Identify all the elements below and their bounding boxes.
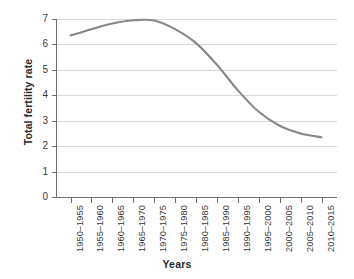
x-tick-label: 1960–1965 [116, 205, 126, 252]
fertility-rate-line-chart: Total fertility rate 01234567 1950–19551… [0, 0, 354, 279]
y-tick-label: 7 [26, 14, 48, 24]
x-tick-label: 1950–1955 [75, 205, 85, 252]
x-tick-marks-group [72, 198, 323, 204]
y-tick-marks-group [52, 20, 57, 198]
x-tick-label: 1975–1980 [179, 205, 189, 252]
x-tick-label: 1995–2000 [263, 205, 273, 252]
x-tick-label: 1970–1975 [158, 205, 168, 252]
x-tick-label: 2000–2005 [284, 205, 294, 252]
y-tick-label: 1 [26, 167, 48, 177]
y-tick-label: 5 [26, 65, 48, 75]
x-tick-label: 1985–1990 [221, 205, 231, 252]
x-tick-label: 2005–2010 [305, 205, 315, 252]
fertility-rate-data-line [71, 20, 322, 138]
x-tick-label: 1955–1960 [95, 205, 105, 252]
x-tick-label: 1980–1985 [200, 205, 210, 252]
x-axis-title: Years [0, 258, 354, 270]
x-tick-label: 1965–1970 [137, 205, 147, 252]
plot-area [0, 0, 354, 279]
x-tick-label: 1990–1995 [242, 205, 252, 252]
y-tick-label: 0 [26, 192, 48, 202]
y-tick-label: 4 [26, 90, 48, 100]
y-tick-label: 2 [26, 141, 48, 151]
y-tick-label: 3 [26, 116, 48, 126]
y-tick-label: 6 [26, 39, 48, 49]
x-tick-label: 2010–2015 [326, 205, 336, 252]
